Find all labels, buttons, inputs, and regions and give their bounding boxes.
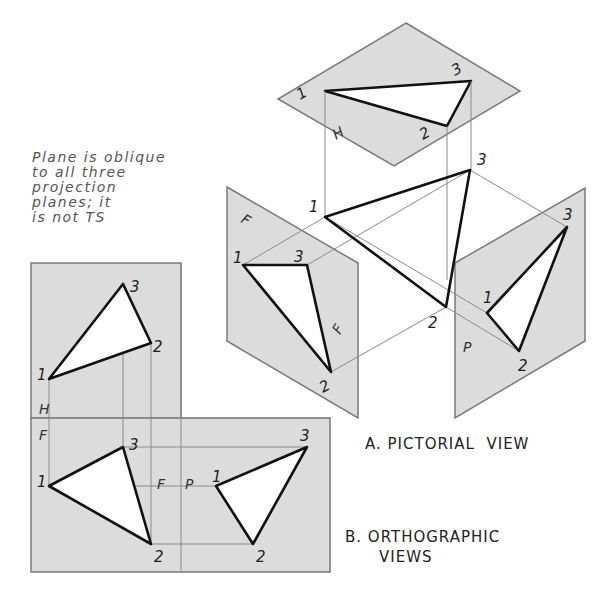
note-line: to all three (32, 165, 166, 180)
caption-orthographic: B. ORTHOGRAPHIC (345, 528, 500, 546)
fold-label-f: F (39, 427, 48, 443)
caption-orthographic-line2: VIEWS (379, 548, 433, 566)
vertex-label-2-p: 2 (518, 357, 528, 375)
plane-label-p: P (463, 339, 472, 355)
vertex-label-1-top: 1 (37, 366, 47, 384)
vertex-label-1-p: 1 (483, 289, 493, 307)
note-text: Plane is oblique to all three projection… (32, 150, 166, 225)
fold-label-h: H (39, 401, 50, 417)
pictorial-view: 1 3 2 H 1 3 2 F F 1 3 2 P 1 3 (227, 23, 585, 418)
vertex-label-3-top: 3 (130, 278, 140, 296)
note-line: Plane is oblique (32, 150, 166, 165)
fold-label-p: P (185, 476, 194, 492)
caption-pictorial: A. PICTORIAL VIEW (365, 435, 529, 453)
oblique-plane-diagram: 1 3 2 H 1 3 2 F F 1 3 2 P 1 3 (0, 0, 614, 601)
vertex-label-3-p: 3 (563, 206, 573, 224)
note-line: planes; it (32, 195, 166, 210)
vertex-label-2-space: 2 (428, 314, 438, 332)
note-line: is not TS (32, 210, 166, 225)
projector-line (307, 170, 470, 265)
vertex-label-3-side: 3 (300, 427, 310, 445)
vertex-label-2-front: 2 (154, 548, 164, 566)
fold-label-f2: F (157, 476, 166, 492)
vertex-label-3-space: 3 (477, 151, 487, 169)
vertex-label-3-f: 3 (294, 248, 304, 266)
vertex-label-1-side: 1 (212, 468, 222, 486)
note-line: projection (32, 180, 166, 195)
vertex-label-1-front: 1 (37, 473, 47, 491)
vertex-label-1-f: 1 (233, 249, 243, 267)
vertex-label-2-side: 2 (256, 548, 266, 566)
vertex-label-2-top: 2 (153, 338, 163, 356)
projector-line (470, 170, 567, 227)
vertex-label-1-space: 1 (309, 198, 319, 216)
vertex-label-3-front: 3 (129, 436, 139, 454)
